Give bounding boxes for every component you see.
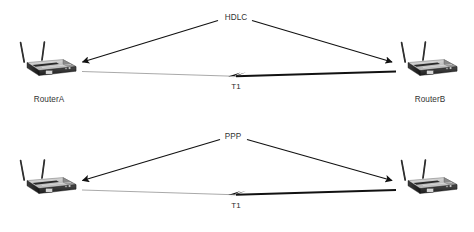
diagram-canvas: HDLC T1 RouterA RouterB [0,0,474,232]
ppp-serial-link [82,190,396,197]
hdlc-arrow-to-router-b [252,21,392,63]
hdlc-protocol-pointers [83,21,393,63]
ppp-link-thick-segment [236,190,396,195]
router-d-icon[interactable] [402,160,457,193]
hdlc-protocol-label: HDLC [225,13,248,22]
router-a-icon[interactable] [21,42,76,75]
hdlc-link-thick-segment [236,72,396,77]
hdlc-serial-link [82,72,396,79]
hdlc-row-group: HDLC T1 RouterA RouterB [21,13,457,104]
hdlc-arrow-to-router-a [83,21,219,63]
ppp-protocol-label: PPP [225,132,242,141]
network-topology-diagram: HDLC T1 RouterA RouterB [0,0,474,232]
ppp-protocol-pointers [83,140,393,181]
router-c-icon[interactable] [21,160,76,193]
ppp-arrow-to-right-router [247,140,392,181]
router-a-label: RouterA [34,95,65,104]
ppp-row-group: PPP T1 [21,132,457,210]
ppp-link-label: T1 [231,201,241,210]
ppp-link-thin-segment [82,190,236,195]
hdlc-link-label: T1 [231,82,241,91]
ppp-arrow-to-left-router [83,140,221,181]
router-b-label: RouterB [415,95,446,104]
hdlc-link-thin-segment [82,72,236,77]
router-b-icon[interactable] [402,42,457,75]
